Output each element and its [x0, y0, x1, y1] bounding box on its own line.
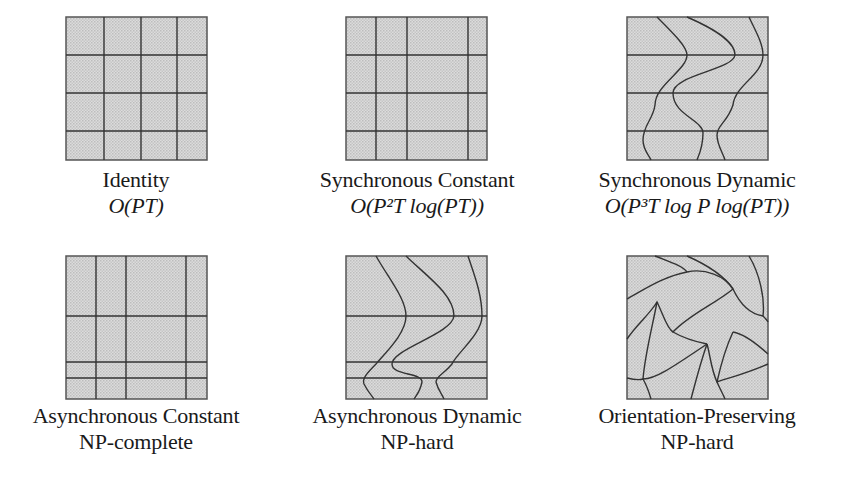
panel-title: Orientation-Preserving — [557, 403, 837, 429]
asynchronous-dynamic-grid-diagram — [344, 254, 494, 404]
panel-title: Asynchronous Dynamic — [277, 403, 557, 429]
asynchronous-constant-grid-diagram — [64, 254, 214, 404]
orientation-preserving-grid-diagram — [625, 254, 775, 404]
panel-complexity: O(P²T log(PT)) — [277, 193, 557, 219]
synchronous-dynamic-grid-diagram — [625, 15, 775, 165]
panel-title: Identity — [0, 167, 276, 193]
panel-title: Synchronous Dynamic — [557, 167, 837, 193]
panel-title: Synchronous Constant — [277, 167, 557, 193]
panel-complexity: O(P³T log P log(PT)) — [557, 193, 837, 219]
panel-complexity: NP-complete — [0, 429, 276, 455]
panel-complexity: NP-hard — [557, 429, 837, 455]
panel-title: Asynchronous Constant — [0, 403, 276, 429]
panel-complexity: O(PT) — [0, 193, 276, 219]
synchronous-constant-grid-diagram — [344, 15, 494, 165]
identity-grid-diagram — [64, 15, 214, 165]
panel-complexity: NP-hard — [277, 429, 557, 455]
